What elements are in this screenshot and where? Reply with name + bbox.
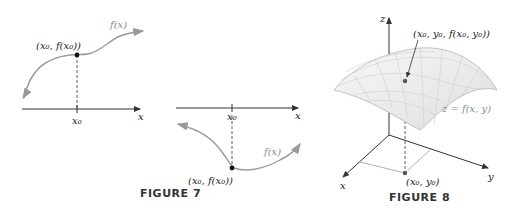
y-axis [389,135,488,168]
critical-point [230,166,235,171]
base-point [403,171,407,175]
point-label: (x₀, f(x₀)) [188,175,233,186]
z-axis-label: z [379,13,386,24]
surface-point-label: (x₀, y₀, f(x₀, y₀)) [413,28,490,39]
point-label: (x₀, f(x₀)) [36,40,81,51]
figure7-left-panel: (x₀, f(x₀)) f(x) x₀ x [22,19,144,126]
critical-point [75,53,80,58]
x-axis [343,135,389,177]
figure8-caption: FIGURE 8 [389,191,450,204]
figure7-right-panel: x₀ x f(x) (x₀, f(x₀)) [176,104,301,186]
surface [334,48,497,130]
figure8-panel: z y x (x₀, y₀, f(x₀, y₀)) z = f(x, y) (x… [334,13,497,191]
x0-label: x₀ [227,111,237,122]
figure7-caption: FIGURE 7 [140,187,201,200]
curve-fx [180,125,300,170]
surface-equation-label: z = f(x, y) [441,103,491,114]
surface-point [403,79,407,83]
x0-label: x₀ [72,115,82,126]
x-axis-label: x [138,111,144,122]
x-axis-label: x [340,180,346,191]
base-point-label: (x₀, y₀) [406,176,440,187]
figures-canvas: (x₀, f(x₀)) f(x) x₀ x x₀ x f(x) (x₀, f(x… [0,0,505,216]
x-axis-label: x [295,110,301,121]
curve-label: f(x) [263,146,281,157]
curve-label: f(x) [109,19,127,30]
y-axis-label: y [487,171,494,182]
